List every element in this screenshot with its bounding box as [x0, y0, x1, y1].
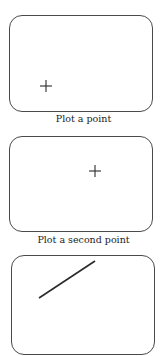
plot-second-point-plus-icon	[10, 137, 154, 233]
caption-plot-a-point: Plot a point	[0, 113, 167, 124]
screen-panel-1	[9, 15, 153, 112]
screen-panel-2	[9, 136, 153, 232]
caption-plot-second-point: Plot a second point	[0, 234, 167, 245]
connecting-line-icon	[12, 256, 156, 356]
plot-point-plus-icon	[10, 16, 154, 113]
screen-panel-3	[11, 255, 155, 355]
